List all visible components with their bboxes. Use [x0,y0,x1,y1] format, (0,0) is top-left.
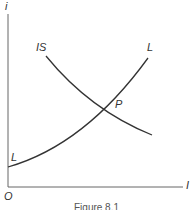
figure-caption: Figure 8.1 [0,203,193,210]
l-curve [8,58,148,167]
intersection-label: P [115,99,122,110]
x-axis-label: I [186,180,189,191]
l-curve-label-upper: L [147,42,153,53]
origin-label: O [4,191,13,202]
is-curve [46,56,152,135]
is-curve-label: IS [36,42,46,53]
y-axis-label: i [5,1,7,12]
diagram-canvas [0,0,193,210]
l-curve-label-lower: L [11,152,17,163]
is-l-diagram: i I O IS L L P Figure 8.1 [0,0,193,210]
